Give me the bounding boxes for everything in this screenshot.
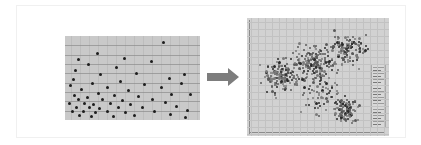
- dense-scatter-plot: [247, 18, 389, 136]
- data-point: [328, 77, 330, 79]
- data-point: [324, 47, 326, 49]
- data-point: [321, 74, 324, 77]
- legend-entry: [373, 73, 384, 74]
- legend-entry: [373, 109, 384, 110]
- data-point: [359, 51, 361, 53]
- data-point: [341, 110, 344, 113]
- data-point: [183, 73, 186, 76]
- data-point: [295, 50, 297, 52]
- data-point: [264, 76, 266, 78]
- data-point: [313, 58, 316, 61]
- data-point: [309, 85, 311, 87]
- data-point: [297, 76, 299, 78]
- data-point: [151, 98, 154, 101]
- data-point: [296, 80, 298, 82]
- data-point: [87, 63, 90, 66]
- data-point: [98, 107, 101, 110]
- data-point: [97, 92, 100, 95]
- data-point: [342, 103, 344, 105]
- data-point: [289, 82, 291, 84]
- data-point: [274, 84, 276, 86]
- data-point: [135, 72, 138, 75]
- data-point: [302, 67, 304, 69]
- gridline-horizontal: [247, 22, 389, 23]
- data-point: [303, 49, 305, 51]
- data-point: [330, 65, 332, 67]
- data-point: [352, 53, 354, 55]
- data-point: [121, 99, 124, 102]
- data-point: [348, 40, 350, 42]
- vertical-texture-line: [197, 36, 198, 120]
- data-point: [349, 60, 351, 62]
- data-point: [337, 92, 339, 94]
- data-point: [137, 95, 140, 98]
- vertical-texture-line: [80, 36, 81, 120]
- data-point: [285, 74, 287, 76]
- data-point: [327, 55, 329, 57]
- data-point: [94, 111, 97, 114]
- axis-line-bottom: [249, 132, 385, 133]
- data-point: [106, 86, 109, 89]
- data-point: [347, 61, 349, 63]
- data-point: [343, 52, 346, 55]
- data-point: [164, 101, 167, 104]
- data-point: [307, 70, 309, 72]
- vertical-texture-line: [179, 36, 180, 120]
- vertical-texture-line: [152, 36, 153, 120]
- data-point: [86, 96, 89, 99]
- data-point: [271, 90, 274, 93]
- gridline-horizontal: [247, 43, 389, 44]
- data-point: [325, 82, 328, 85]
- data-point: [282, 57, 285, 60]
- data-point: [364, 49, 367, 52]
- data-point: [274, 94, 276, 96]
- data-point: [75, 106, 78, 109]
- data-point: [260, 82, 262, 84]
- gridline: [65, 55, 200, 56]
- data-point: [281, 74, 283, 76]
- data-point: [115, 66, 118, 69]
- data-point: [117, 106, 120, 109]
- data-point: [294, 62, 296, 64]
- data-point: [322, 91, 324, 93]
- data-point: [358, 68, 360, 70]
- data-point: [83, 102, 86, 105]
- data-point: [365, 45, 367, 47]
- data-point: [77, 58, 80, 61]
- data-point: [323, 70, 326, 73]
- data-point: [278, 77, 281, 80]
- data-point: [324, 57, 326, 59]
- data-point: [333, 108, 335, 110]
- data-point: [170, 93, 173, 96]
- legend-entry: [373, 103, 384, 104]
- data-point: [317, 107, 319, 109]
- data-point: [338, 41, 340, 43]
- data-point: [73, 94, 76, 97]
- data-point: [77, 98, 80, 101]
- gridline-horizontal: [247, 29, 389, 30]
- data-point: [186, 109, 189, 112]
- data-point: [283, 77, 285, 79]
- data-point: [352, 120, 354, 122]
- data-point: [298, 42, 301, 45]
- data-point: [327, 51, 329, 53]
- data-point: [333, 29, 336, 32]
- data-point: [309, 92, 311, 94]
- data-point: [297, 46, 299, 48]
- data-point: [112, 115, 115, 118]
- data-point: [74, 69, 77, 72]
- data-point: [123, 57, 126, 60]
- data-point: [292, 52, 294, 54]
- data-point: [271, 85, 273, 87]
- data-point: [259, 64, 261, 66]
- data-point: [150, 60, 153, 63]
- data-point: [308, 88, 310, 90]
- gridline: [65, 111, 200, 112]
- data-point: [345, 48, 347, 50]
- data-point: [347, 36, 349, 38]
- data-point: [311, 73, 313, 75]
- data-point: [348, 115, 350, 117]
- data-point: [90, 115, 93, 118]
- data-point: [119, 80, 122, 83]
- data-point: [281, 68, 283, 70]
